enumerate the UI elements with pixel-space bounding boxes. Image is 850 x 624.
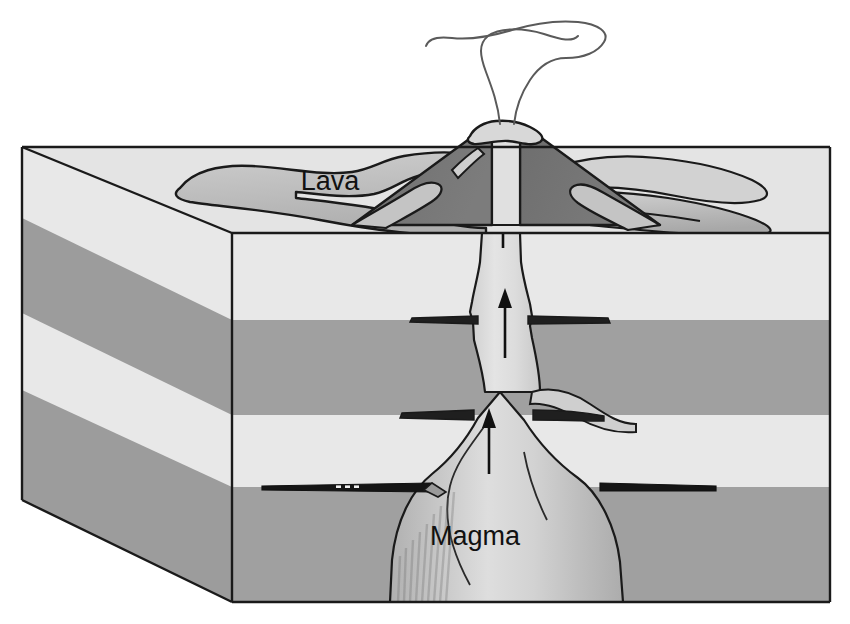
magma-label: Magma	[430, 521, 521, 551]
smoke-strand-outer-right	[426, 21, 606, 124]
volcano-cross-section-illustration: Lava Magma	[0, 0, 850, 624]
lava-label: Lava	[301, 166, 361, 196]
sill-upper-right	[528, 316, 610, 324]
block-front-face	[232, 170, 830, 602]
smoke-plume	[426, 21, 606, 124]
volcano-diagram: Lava Magma	[0, 0, 850, 624]
smoke-strand-outer-left	[481, 29, 578, 124]
sill-upper-left	[410, 316, 478, 324]
sill-lower-left-voids	[336, 485, 359, 488]
summit-crater	[468, 121, 542, 144]
